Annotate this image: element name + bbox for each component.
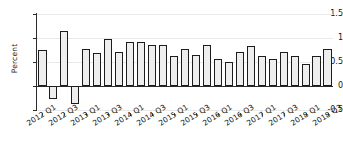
y-tick-mark — [33, 62, 36, 63]
bar — [49, 86, 57, 99]
bar — [203, 45, 211, 86]
bar — [126, 42, 134, 86]
y-tick-mark — [33, 110, 36, 111]
bar — [82, 49, 90, 86]
bar — [236, 52, 244, 86]
y-axis-title: Percent — [10, 24, 19, 94]
bar — [192, 55, 200, 86]
bar — [258, 56, 266, 86]
bar — [247, 46, 255, 86]
bar — [312, 56, 320, 86]
bar — [323, 49, 331, 86]
y-tick-mark — [33, 14, 36, 15]
bar — [302, 64, 310, 86]
bar — [269, 59, 277, 86]
bar-chart: Percent -0.500.511.5 2012 Q12012 Q32013 … — [0, 0, 343, 163]
bar — [71, 86, 79, 104]
bar — [38, 50, 46, 86]
bar-series — [37, 14, 333, 110]
bar — [137, 42, 145, 86]
plot-area — [37, 14, 333, 110]
bar — [170, 56, 178, 86]
bar — [93, 53, 101, 86]
bar — [280, 52, 288, 86]
bar — [291, 56, 299, 86]
bar — [214, 59, 222, 86]
bar — [225, 62, 233, 86]
bar — [181, 49, 189, 86]
bar — [115, 52, 123, 86]
y-tick-mark — [33, 38, 36, 39]
bar — [148, 45, 156, 86]
bar — [60, 31, 68, 86]
bar — [159, 45, 167, 86]
bar — [104, 39, 112, 86]
